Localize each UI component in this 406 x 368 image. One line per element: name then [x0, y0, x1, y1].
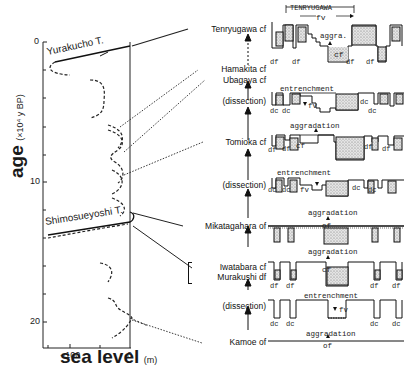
curve-seg-7 — [100, 263, 112, 282]
x-axis-title: sea level (m) — [60, 346, 157, 368]
s7-dc-3: dc — [370, 320, 378, 328]
s8-fill-label: of — [323, 342, 332, 350]
curve-seg-9 — [48, 224, 128, 238]
s1-df-1: df — [270, 58, 278, 66]
section-2 — [272, 92, 404, 112]
stage-dissection-3: (dissection) — [223, 301, 266, 311]
s3-df-1: df — [268, 146, 276, 154]
s7-dc-4: dc — [392, 320, 400, 328]
s1-process-label: aggra. — [320, 32, 347, 40]
tenryugawa-bracket-label: TENRYUGAWA — [290, 4, 332, 12]
s3-df-3: df — [364, 143, 372, 151]
s6-df-3: df — [370, 282, 378, 290]
s2-dc-3: dc — [360, 98, 368, 106]
s5-fill-label: of — [322, 222, 331, 230]
s2-process-label: entrenchment — [280, 85, 334, 93]
s4-fv-label: fv — [300, 186, 309, 194]
section-4 — [272, 178, 404, 196]
bracket — [188, 262, 192, 284]
s3-process-label: aggradation — [290, 122, 340, 130]
y-axis-title: age (×10⁴ y BP) — [6, 94, 28, 178]
curve-seg-3 — [108, 125, 122, 148]
y-axis-unit: (×10⁴ y BP) — [15, 94, 25, 141]
curve-seg-2 — [90, 80, 104, 118]
s6-fill-label: cf — [322, 266, 331, 274]
stage-iwatabara: Iwatabara cf — [220, 262, 266, 272]
stage-kamoe: Kamoe of — [230, 337, 266, 347]
s1-df-3: df — [346, 58, 354, 66]
s4-dc-4: dc — [368, 186, 376, 194]
s3-df-2: df — [282, 145, 290, 153]
s3-fill-label: cf — [296, 142, 305, 150]
curve-seg-1 — [50, 62, 70, 75]
connector-lines — [120, 29, 205, 343]
s8-process-label: aggradation — [306, 330, 356, 338]
sea-level-chart — [43, 42, 148, 348]
stage-tomioka: Tomioka cf — [225, 137, 266, 147]
s6-df-2: df — [286, 282, 294, 290]
geomorphic-stage-diagram: age (×10⁴ y BP) 0 10 20 −100 0 sea level… — [0, 0, 406, 368]
s4-process-label: entrenchment — [277, 169, 331, 177]
s4-dc-1: dc — [268, 186, 276, 194]
section-5 — [268, 226, 404, 244]
s5-process-label: aggradation — [308, 209, 358, 217]
curve-seg-5 — [112, 170, 122, 194]
s1-df-4: df — [366, 58, 374, 66]
s2-dc-4: dc — [368, 107, 376, 115]
stage-murakushi: Murakushi df — [217, 272, 266, 282]
s4-dc-3: dc — [352, 184, 360, 192]
stage-dissection-2: (dissection) — [223, 180, 266, 190]
stage-mikatagahara: Mikatagahara of — [205, 221, 266, 231]
s1-df-2: df — [292, 58, 300, 66]
stage-hamakita: Hamakita cf — [221, 64, 266, 74]
x-axis-unit: (m) — [144, 355, 158, 365]
s2-fv-label: fv — [308, 102, 317, 110]
stage-ubagaya: Ubagaya cf — [223, 75, 266, 85]
s4-dc-2: dc — [282, 186, 290, 194]
s7-fv-label: fv — [339, 306, 348, 314]
stage-tenryugawa: Tenryugawa cf — [211, 24, 266, 34]
s7-dc-1: dc — [270, 320, 278, 328]
s1-fv-label: fv — [316, 13, 326, 22]
s3-df-4: df — [382, 145, 390, 153]
y-tick-10: 10 — [30, 176, 40, 186]
s2-dc-1: dc — [270, 107, 278, 115]
s6-df-4: df — [392, 282, 400, 290]
s2-dc-2: dc — [282, 107, 290, 115]
y-tick-0: 0 — [34, 36, 39, 46]
stage-dissection-1: (dissection) — [223, 96, 266, 106]
y-tick-20: 20 — [30, 316, 40, 326]
s6-df-1: df — [270, 282, 278, 290]
s7-process-label: entrenchment — [304, 292, 358, 300]
s6-process-label: aggradation — [308, 248, 358, 256]
curve-seg-4 — [108, 130, 123, 183]
s1-fill-label: cf — [334, 50, 344, 59]
curve-seg-8 — [108, 298, 132, 338]
s7-dc-2: dc — [286, 320, 294, 328]
